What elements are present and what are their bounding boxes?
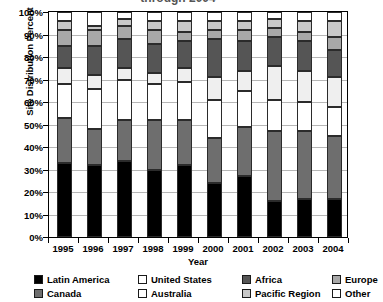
- stacked-bar[interactable]: [297, 12, 312, 237]
- bar-column[interactable]: [327, 12, 342, 237]
- stacked-bar[interactable]: [237, 12, 252, 237]
- bar-segment[interactable]: [237, 12, 252, 21]
- bar-segment[interactable]: [327, 12, 342, 21]
- bar-segment[interactable]: [267, 131, 282, 201]
- bar-segment[interactable]: [57, 84, 72, 118]
- bar-segment[interactable]: [327, 37, 342, 51]
- bar-segment[interactable]: [147, 73, 162, 84]
- bar-segment[interactable]: [87, 75, 102, 89]
- bar-segment[interactable]: [87, 129, 102, 165]
- legend-item[interactable]: Other: [332, 288, 383, 299]
- legend-item[interactable]: Latin America: [34, 274, 138, 285]
- bar-segment[interactable]: [177, 21, 192, 32]
- bar-segment[interactable]: [327, 21, 342, 37]
- bar-segment[interactable]: [117, 26, 132, 40]
- bar-segment[interactable]: [57, 118, 72, 163]
- bar-segment[interactable]: [207, 138, 222, 183]
- bar-segment[interactable]: [117, 120, 132, 161]
- legend-item[interactable]: United States: [138, 274, 242, 285]
- stacked-bar[interactable]: [267, 12, 282, 237]
- bar-segment[interactable]: [237, 41, 252, 70]
- bar-segment[interactable]: [237, 176, 252, 237]
- bar-segment[interactable]: [147, 44, 162, 73]
- bar-segment[interactable]: [237, 71, 252, 91]
- bar-segment[interactable]: [297, 102, 312, 131]
- legend-item[interactable]: Africa: [242, 274, 332, 285]
- bar-column[interactable]: [177, 12, 192, 237]
- bar-segment[interactable]: [87, 12, 102, 26]
- bar-segment[interactable]: [177, 120, 192, 165]
- bar-segment[interactable]: [297, 12, 312, 21]
- bar-segment[interactable]: [267, 66, 282, 100]
- bar-segment[interactable]: [207, 21, 222, 30]
- bar-segment[interactable]: [87, 26, 102, 31]
- bar-segment[interactable]: [57, 68, 72, 84]
- bar-segment[interactable]: [297, 71, 312, 103]
- bar-column[interactable]: [237, 12, 252, 237]
- bar-segment[interactable]: [267, 12, 282, 19]
- stacked-bar[interactable]: [327, 12, 342, 237]
- bar-segment[interactable]: [117, 80, 132, 121]
- bar-segment[interactable]: [207, 77, 222, 100]
- bar-segment[interactable]: [297, 41, 312, 70]
- bar-column[interactable]: [87, 12, 102, 237]
- bar-segment[interactable]: [267, 28, 282, 37]
- bar-segment[interactable]: [147, 120, 162, 170]
- bar-segment[interactable]: [237, 127, 252, 177]
- bar-segment[interactable]: [267, 19, 282, 28]
- bar-segment[interactable]: [117, 161, 132, 238]
- bar-segment[interactable]: [237, 91, 252, 127]
- bar-segment[interactable]: [177, 12, 192, 21]
- stacked-bar[interactable]: [57, 12, 72, 237]
- bar-segment[interactable]: [177, 41, 192, 68]
- bar-segment[interactable]: [237, 30, 252, 41]
- bar-segment[interactable]: [327, 50, 342, 77]
- bar-segment[interactable]: [177, 32, 192, 41]
- bar-segment[interactable]: [207, 30, 222, 39]
- bar-segment[interactable]: [327, 199, 342, 237]
- bar-segment[interactable]: [327, 136, 342, 199]
- legend-item[interactable]: Pacific Region: [242, 288, 332, 299]
- bar-segment[interactable]: [147, 170, 162, 238]
- legend-item[interactable]: Europe: [332, 274, 383, 285]
- bar-segment[interactable]: [327, 107, 342, 136]
- bar-segment[interactable]: [87, 30, 102, 46]
- bar-segment[interactable]: [147, 21, 162, 30]
- bar-segment[interactable]: [87, 46, 102, 75]
- bar-segment[interactable]: [297, 21, 312, 32]
- stacked-bar[interactable]: [87, 12, 102, 237]
- bar-segment[interactable]: [267, 100, 282, 132]
- bar-segment[interactable]: [327, 77, 342, 106]
- bar-column[interactable]: [117, 12, 132, 237]
- bar-segment[interactable]: [177, 68, 192, 82]
- bar-segment[interactable]: [267, 201, 282, 237]
- bar-column[interactable]: [147, 12, 162, 237]
- bar-segment[interactable]: [147, 84, 162, 120]
- bar-segment[interactable]: [57, 30, 72, 46]
- bar-segment[interactable]: [117, 12, 132, 19]
- bar-column[interactable]: [297, 12, 312, 237]
- bar-segment[interactable]: [117, 19, 132, 26]
- bar-segment[interactable]: [207, 12, 222, 21]
- bar-segment[interactable]: [237, 21, 252, 30]
- bar-segment[interactable]: [57, 12, 72, 21]
- bar-segment[interactable]: [57, 163, 72, 237]
- bar-segment[interactable]: [87, 89, 102, 130]
- bar-segment[interactable]: [57, 46, 72, 69]
- stacked-bar[interactable]: [177, 12, 192, 237]
- bar-segment[interactable]: [297, 199, 312, 237]
- bar-segment[interactable]: [147, 30, 162, 44]
- legend-item[interactable]: Australia: [138, 288, 242, 299]
- stacked-bar[interactable]: [117, 12, 132, 237]
- bar-segment[interactable]: [177, 82, 192, 120]
- bar-column[interactable]: [57, 12, 72, 237]
- stacked-bar[interactable]: [207, 12, 222, 237]
- bar-column[interactable]: [267, 12, 282, 237]
- bar-segment[interactable]: [87, 165, 102, 237]
- bar-segment[interactable]: [267, 37, 282, 66]
- stacked-bar[interactable]: [147, 12, 162, 237]
- bar-segment[interactable]: [207, 100, 222, 138]
- bar-segment[interactable]: [177, 165, 192, 237]
- bar-segment[interactable]: [117, 39, 132, 68]
- bar-segment[interactable]: [297, 131, 312, 199]
